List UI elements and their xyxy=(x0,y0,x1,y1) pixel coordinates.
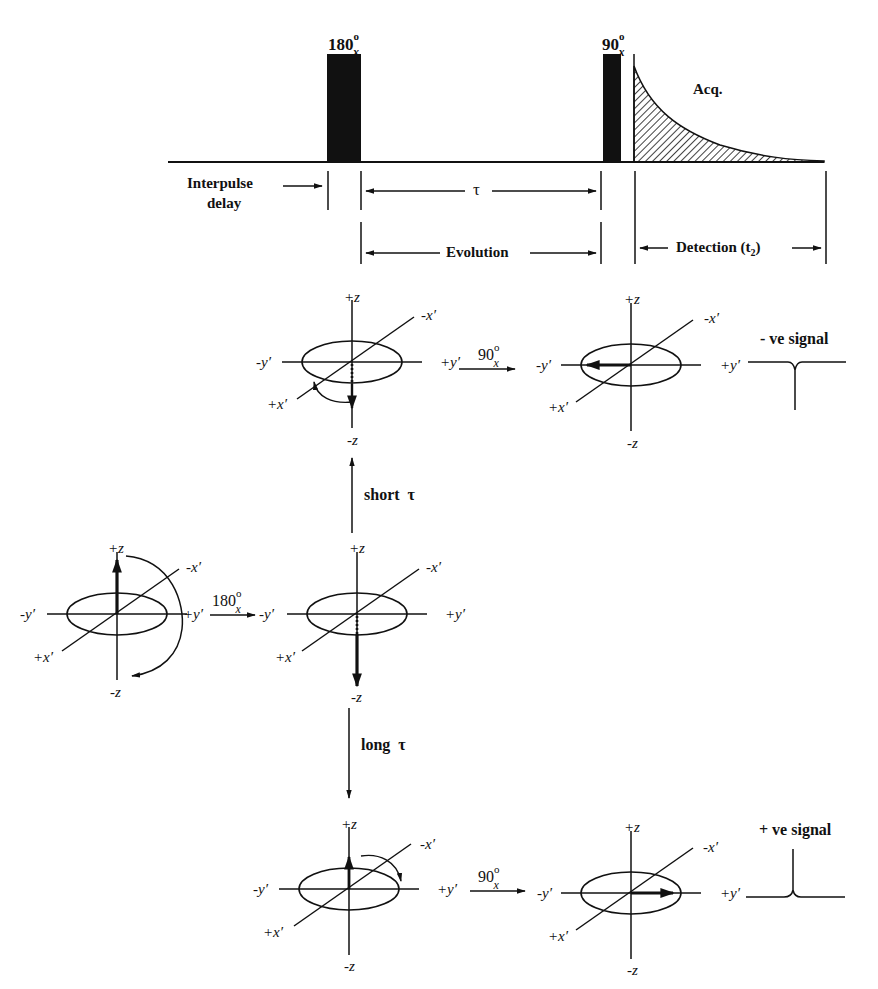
axis-label-minus-z: -z xyxy=(627,436,638,451)
axis-label-plus-x: +x′ xyxy=(548,929,568,944)
interpulse-label-line1: Interpulse xyxy=(187,176,253,191)
axis-label-minus-y: -y′ xyxy=(536,358,551,373)
axis-label-plus-z: +z xyxy=(349,541,365,556)
axis-label-plus-z: +z xyxy=(344,290,360,305)
axis-label-minus-x: -x′ xyxy=(186,560,201,575)
tau-label: τ xyxy=(473,181,480,198)
rotation-arrow-180 xyxy=(126,556,182,676)
axis-label-minus-x: -x′ xyxy=(420,837,435,852)
axis-label-minus-y: -y′ xyxy=(537,886,552,901)
axis-label-minus-y: -y′ xyxy=(253,882,268,897)
axis-label-minus-x: -x′ xyxy=(426,560,441,575)
axis-label-minus-z: -z xyxy=(347,433,358,448)
axis-label-plus-z: +z xyxy=(624,820,640,835)
detection-label: Detection (t2) xyxy=(676,240,761,258)
axis-label-minus-y: -y′ xyxy=(20,607,35,622)
transition-90-bottom-label: 90ox xyxy=(478,867,499,889)
axis-label-plus-x: +x′ xyxy=(275,650,295,665)
axis-label-minus-z: -z xyxy=(351,690,362,705)
interpulse-label-line2: delay xyxy=(207,196,241,211)
short-tau-label: short τ xyxy=(364,487,415,503)
pulse-180-bar xyxy=(327,54,361,162)
rotation-arrow-90 xyxy=(361,855,401,881)
axis-label-plus-x: +x′ xyxy=(33,650,53,665)
pulse-90-label: 90ox xyxy=(602,34,625,56)
vector-diagram-positive-signal xyxy=(561,831,701,959)
transition-90-top-label: 90ox xyxy=(478,345,499,367)
spectrum-negative-peak xyxy=(748,362,846,410)
axis-label-minus-z: -z xyxy=(627,963,638,978)
axis-label-plus-x: +x′ xyxy=(267,397,287,412)
long-tau-label: long τ xyxy=(361,737,406,753)
vector-diagram-negative-signal xyxy=(561,303,701,431)
axis-label-plus-y: +y′ xyxy=(183,607,203,622)
vector-diagram-short-tau xyxy=(282,300,422,428)
axis-label-minus-x: -x′ xyxy=(704,311,719,326)
vector-diagram-equilibrium xyxy=(47,552,187,680)
axis-label-minus-x: -x′ xyxy=(421,308,436,323)
transition-180-label: 180ox xyxy=(212,591,241,613)
axis-label-minus-x: -x′ xyxy=(703,840,718,855)
evolution-label: Evolution xyxy=(446,245,509,260)
axis-label-plus-z: +z xyxy=(624,292,640,307)
axis-label-plus-y: +y′ xyxy=(720,358,740,373)
spectrum-positive-peak xyxy=(746,849,845,897)
axis-label-plus-y: +y′ xyxy=(445,607,465,622)
axis-label-minus-z: -z xyxy=(110,685,121,700)
pulse-sequence xyxy=(168,54,826,264)
axis-label-plus-z: +z xyxy=(108,541,124,556)
rotation-arrow-90 xyxy=(314,382,352,402)
diagram-canvas xyxy=(0,0,878,989)
fid-label: Acq. xyxy=(693,82,723,97)
axis-label-plus-y: +y′ xyxy=(720,886,740,901)
axis-label-plus-y: +y′ xyxy=(440,355,460,370)
pulse-90-bar xyxy=(603,54,621,162)
axis-label-plus-x: +x′ xyxy=(263,925,283,940)
axis-label-minus-y: -y′ xyxy=(256,355,271,370)
axis-label-plus-z: +z xyxy=(341,817,357,832)
vector-diagram-long-tau xyxy=(279,827,419,955)
axis-label-minus-z: -z xyxy=(344,959,355,974)
fid-decay xyxy=(634,66,824,162)
axis-label-plus-x: +x′ xyxy=(548,400,568,415)
axis-label-plus-y: +y′ xyxy=(437,882,457,897)
vector-diagram-after-180 xyxy=(287,552,427,686)
negative-signal-label: - ve signal xyxy=(760,331,828,347)
positive-signal-label: + ve signal xyxy=(759,822,831,838)
pulse-180-label: 180ox xyxy=(328,34,359,56)
axis-label-minus-y: -y′ xyxy=(259,607,274,622)
